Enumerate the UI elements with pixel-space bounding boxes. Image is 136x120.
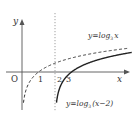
label-log3-x-prefix: y=log: [87, 31, 110, 40]
x-tick-2: 2: [57, 75, 62, 84]
label-log3-x-minus-2-base: 3: [88, 104, 91, 109]
x-tick-1: 1: [38, 75, 43, 84]
label-log3-x-minus-2-prefix: y=log: [65, 99, 88, 108]
label-log3-x-minus-2: y=log3(x−2): [65, 99, 113, 109]
x-axis-arrow-icon: [124, 70, 130, 75]
log-graph-diagram: y x O 1 2 3 y=log3x y=log3(x−2): [0, 0, 136, 120]
x-tick-3: 3: [66, 75, 71, 84]
label-log3-x-minus-2-arg: (x−2): [92, 99, 113, 108]
y-axis-label: y: [12, 16, 19, 26]
label-log3-x-base: 3: [110, 36, 113, 41]
label-log3-x-arg: x: [114, 31, 119, 40]
label-log3-x: y=log3x: [87, 31, 119, 41]
x-axis-label: x: [117, 74, 122, 84]
origin-label: O: [11, 74, 18, 84]
y-axis-arrow-icon: [20, 19, 25, 25]
